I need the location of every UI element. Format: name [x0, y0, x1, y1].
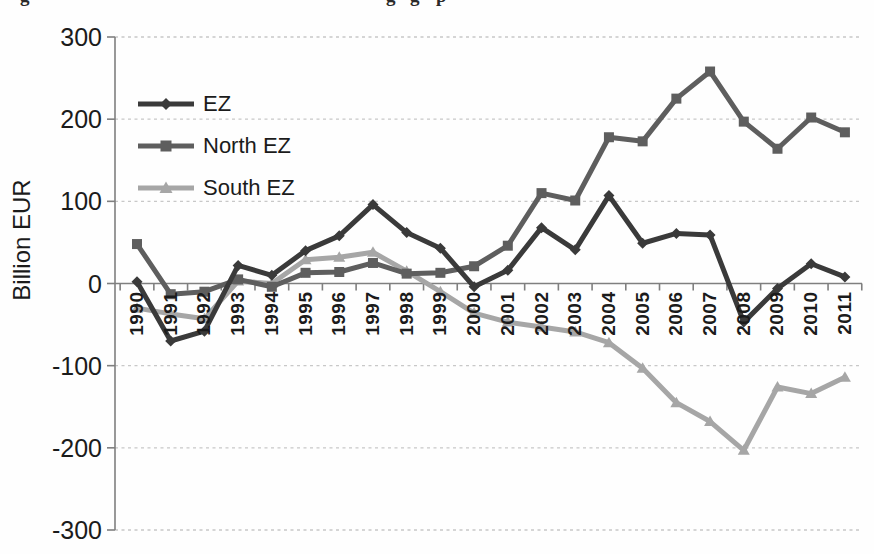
chart-legend: EZ North EZ South EZ	[136, 83, 295, 209]
legend-item-ez: EZ	[136, 83, 295, 125]
svg-text:2004: 2004	[598, 292, 619, 336]
legend-label-north-ez: North EZ	[203, 133, 291, 159]
svg-text:2009: 2009	[766, 292, 787, 336]
y-axis-title: Billion EUR	[8, 179, 35, 300]
svg-text:-200: -200	[52, 434, 102, 462]
legend-item-south-ez: South EZ	[136, 167, 295, 209]
y-tick-labels: 3002001000-100-200-300	[52, 23, 102, 544]
figure-current-account-balances: gggp 19901991199219931994199519961997199…	[0, 0, 874, 554]
svg-text:1990: 1990	[126, 292, 147, 336]
svg-text:2000: 2000	[463, 291, 484, 335]
svg-text:1992: 1992	[193, 292, 214, 336]
svg-text:2010: 2010	[800, 292, 821, 336]
svg-text:200: 200	[60, 105, 102, 133]
svg-text:100: 100	[60, 187, 102, 215]
x-tick-labels: 1990199119921993199419951996199719981999…	[126, 291, 855, 335]
svg-text:2007: 2007	[699, 292, 720, 336]
svg-text:1993: 1993	[227, 292, 248, 336]
line-chart: 1990199119921993199419951996199719981999…	[0, 0, 874, 554]
svg-text:1999: 1999	[429, 292, 450, 336]
svg-text:1996: 1996	[328, 292, 349, 336]
svg-text:300: 300	[60, 23, 102, 51]
legend-label-ez: EZ	[203, 91, 231, 117]
svg-text:0: 0	[88, 270, 102, 298]
svg-text:2011: 2011	[834, 292, 855, 335]
svg-text:1997: 1997	[362, 292, 383, 336]
svg-text:1991: 1991	[160, 292, 181, 336]
svg-text:2008: 2008	[733, 292, 754, 336]
svg-text:-300: -300	[52, 516, 102, 544]
svg-text:2006: 2006	[665, 292, 686, 336]
north-ez-line-marker-icon	[136, 137, 198, 155]
svg-text:2002: 2002	[531, 292, 552, 336]
svg-text:Billion EUR: Billion EUR	[8, 179, 35, 300]
svg-text:2001: 2001	[497, 292, 518, 336]
svg-text:2005: 2005	[632, 292, 653, 336]
svg-text:2003: 2003	[564, 292, 585, 336]
legend-label-south-ez: South EZ	[203, 175, 295, 201]
svg-text:-100: -100	[52, 352, 102, 380]
svg-text:1995: 1995	[295, 292, 316, 336]
south-ez-line-marker-icon	[136, 179, 198, 197]
ez-line-marker-icon	[136, 95, 198, 113]
svg-text:1998: 1998	[396, 292, 417, 336]
svg-text:1994: 1994	[261, 292, 282, 336]
legend-item-north-ez: North EZ	[136, 125, 295, 167]
